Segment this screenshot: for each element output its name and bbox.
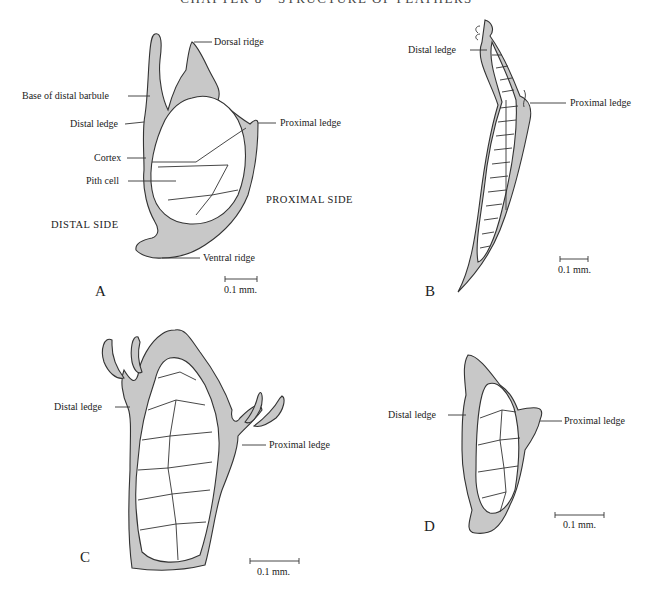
panel-letter-c: C xyxy=(80,549,90,565)
label-distal-side: DISTAL SIDE xyxy=(51,219,119,230)
label-distal-ledge-a: Distal ledge xyxy=(70,118,119,129)
label-dorsal-ridge: Dorsal ridge xyxy=(214,36,264,47)
label-cortex: Cortex xyxy=(94,152,121,163)
label-proximal-ledge-d: Proximal ledge xyxy=(564,415,625,426)
panel-letter-d: D xyxy=(424,518,435,534)
label-proximal-ledge-c: Proximal ledge xyxy=(269,439,330,450)
feather-barb-cross-sections-figure: Dorsal ridge Base of distal barbule Dist… xyxy=(0,0,653,594)
panel-c: Distal ledge Proximal ledge 0.1 mm. C xyxy=(54,330,330,577)
scale-bar-b: 0.1 mm. xyxy=(558,256,591,275)
label-proximal-side: PROXIMAL SIDE xyxy=(266,194,353,205)
label-distal-ledge-b: Distal ledge xyxy=(408,44,457,55)
label-proximal-ledge-b: Proximal ledge xyxy=(570,97,631,108)
label-proximal-ledge-a: Proximal ledge xyxy=(280,117,341,128)
scale-label-a: 0.1 mm. xyxy=(224,284,257,295)
label-base-distal-barbule: Base of distal barbule xyxy=(22,90,109,101)
scale-bar-d: 0.1 mm. xyxy=(555,512,604,530)
panel-c-distal-barbule-1 xyxy=(102,339,124,378)
panel-c-proximal-barbule-1 xyxy=(245,393,262,423)
panel-b: Distal ledge Proximal ledge 0.1 mm. B xyxy=(408,20,631,299)
panel-letter-a: A xyxy=(95,283,106,299)
label-distal-ledge-d: Distal ledge xyxy=(388,409,437,420)
label-distal-ledge-c: Distal ledge xyxy=(54,401,103,412)
panel-c-distal-barbule-2 xyxy=(131,337,142,373)
scale-bar-c: 0.1 mm. xyxy=(250,558,299,577)
panel-d: Distal ledge Proximal ledge 0.1 mm. D xyxy=(388,355,625,534)
scale-label-d: 0.1 mm. xyxy=(563,519,596,530)
scale-label-c: 0.1 mm. xyxy=(257,566,290,577)
scale-label-b: 0.1 mm. xyxy=(558,264,591,275)
scale-bar-a: 0.1 mm. xyxy=(224,276,257,295)
panel-a: Dorsal ridge Base of distal barbule Dist… xyxy=(22,34,353,299)
label-pith-cell: Pith cell xyxy=(86,175,119,186)
label-ventral-ridge: Ventral ridge xyxy=(203,252,255,263)
panel-letter-b: B xyxy=(425,283,435,299)
